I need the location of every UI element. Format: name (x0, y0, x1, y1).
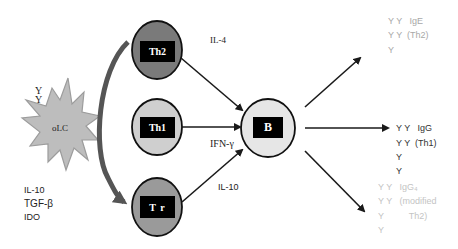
cytokine-ifn-gamma: IFN-γ (210, 139, 234, 149)
arrow-th2-to-b (181, 58, 242, 110)
olc-secretes-tgfb: TGF-β (24, 199, 53, 209)
th1-label-box: Th1 (140, 117, 175, 138)
olc-secretes-il10: IL-10 (24, 186, 45, 195)
output-row: Y (388, 46, 394, 55)
th2-label-box: Th2 (140, 41, 175, 62)
output-row: Y (378, 226, 384, 235)
output-row: Y Y (Th1) (396, 139, 437, 148)
output-row: Y (396, 167, 402, 176)
arrow-b-to-ige (305, 58, 360, 107)
output-row: Y Y (Th2) (388, 31, 429, 40)
arrow-b-to-igg4 (305, 151, 364, 211)
arrow-tr-to-b (182, 150, 242, 202)
output-row: Y (396, 153, 402, 162)
output-row: Y Y (modified (378, 197, 437, 206)
olc-label: oLC (52, 124, 68, 133)
tr-label-box: T r (140, 196, 175, 218)
cytokine-il4: IL-4 (210, 36, 226, 45)
output-row: Y Y IgG₄ (378, 183, 418, 192)
output-row: Y Th2) (378, 212, 427, 221)
b-label-box: B (253, 117, 283, 138)
output-row: Y Y IgE (388, 17, 423, 26)
olc-antibody-glyph: Y (35, 95, 42, 105)
olc-secretes-ido: IDO (24, 213, 40, 222)
output-row: Y Y IgG (396, 124, 432, 133)
curved-arrow-th2-to-tr (99, 42, 128, 202)
cytokine-il10: IL-10 (218, 183, 239, 192)
